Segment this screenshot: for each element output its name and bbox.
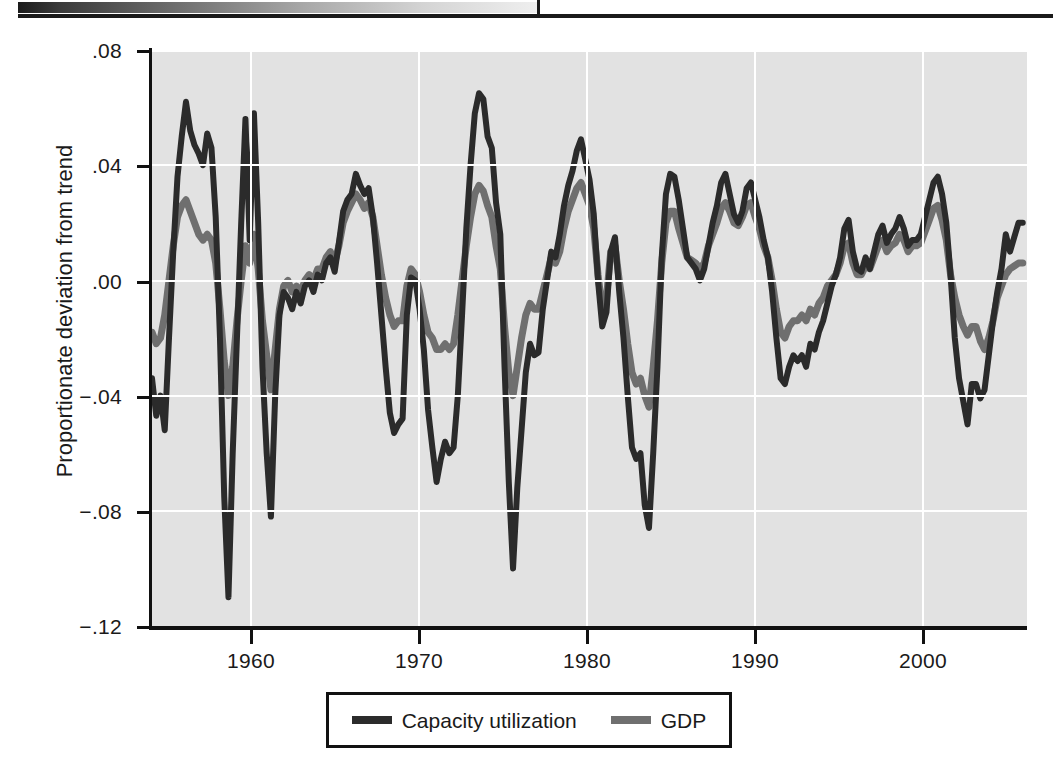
chart-figure: .08 .04 .00 −.04 −.08 −.12 Proportionate… (0, 0, 1053, 772)
x-axis-tick-label: 1990 (710, 650, 800, 672)
x-axis-tick (922, 630, 925, 644)
gridline-vertical (418, 50, 420, 626)
gridline-vertical (922, 50, 924, 626)
legend-entry-gdp: GDP (611, 710, 707, 731)
x-axis-tick-label: 1980 (542, 650, 632, 672)
gridline-vertical (754, 50, 756, 626)
gridline-horizontal (152, 50, 1027, 52)
y-axis-tick (137, 165, 150, 168)
legend-label: Capacity utilization (402, 710, 577, 731)
y-axis-line (149, 48, 152, 628)
legend-label: GDP (661, 710, 707, 731)
legend-swatch-icon (611, 716, 651, 724)
y-axis-tick (137, 626, 150, 629)
gridline-horizontal (152, 395, 1027, 397)
series-canvas (152, 50, 1027, 626)
y-axis-tick-label: −.12 (60, 616, 122, 637)
x-axis-tick-label: 2000 (878, 650, 968, 672)
y-axis-title: Proportionate deviation from trend (54, 31, 76, 591)
legend-entry-capacity-utilization: Capacity utilization (352, 710, 577, 731)
y-axis-tick (137, 50, 150, 53)
gridline-horizontal (152, 280, 1027, 282)
chart-legend: Capacity utilization GDP (326, 692, 732, 748)
y-axis-tick (137, 511, 150, 514)
x-axis-tick (250, 630, 253, 644)
x-axis-tick-label: 1960 (206, 650, 296, 672)
x-axis-tick (418, 630, 421, 644)
y-axis-tick (137, 281, 150, 284)
x-axis-tick (586, 630, 589, 644)
gridline-horizontal (152, 164, 1027, 166)
y-axis-tick (137, 396, 150, 399)
gridline-horizontal (152, 510, 1027, 512)
x-axis-tick (754, 630, 757, 644)
x-axis-tick-label: 1970 (374, 650, 464, 672)
gridline-vertical (586, 50, 588, 626)
plot-area (152, 50, 1027, 626)
legend-swatch-icon (352, 716, 392, 724)
gridline-vertical (250, 50, 252, 626)
